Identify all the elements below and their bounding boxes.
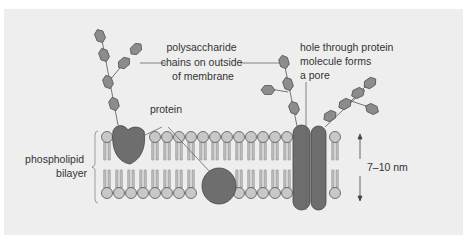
protein-peripheral-top [113, 126, 145, 164]
polysaccharide-chain-center [261, 54, 301, 126]
pore-label: hole through protein molecule forms a po… [300, 41, 396, 81]
membrane-diagram: polysaccharide chains on outside of memb… [0, 0, 472, 242]
bilayer-brace [92, 131, 98, 203]
thickness-arrow [358, 134, 362, 201]
protein-label: protein [150, 103, 182, 115]
bilayer-label: phospholipid bilayer [25, 153, 87, 179]
pore-protein-right [311, 126, 326, 210]
protein-peripheral-bottom [202, 168, 236, 204]
polysaccharide-chain-left [93, 28, 144, 125]
pore-protein-left [293, 125, 310, 210]
thickness-label: 7–10 nm [367, 161, 408, 173]
polysaccharide-label: polysaccharide chains on outside of memb… [161, 41, 246, 82]
polysaccharide-chain-right [322, 75, 381, 127]
